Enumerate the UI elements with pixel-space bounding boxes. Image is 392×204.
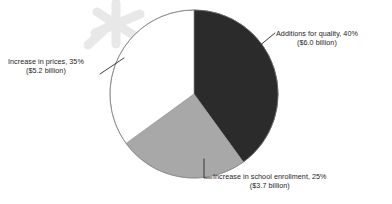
pie-label-line2: ($3.7 billion) [213,181,327,190]
leader-line-additions-for-quality [258,33,275,47]
pie-label-additions-for-quality: Additions for quality, 40% ($6.0 billion… [276,29,358,48]
pie-label-line1: Increase in school enrollment, 25% [213,172,327,181]
pie-label-line2: ($6.0 billion) [276,38,358,47]
pie-label-increase-in-prices: Increase in prices, 35% ($5.2 billion) [8,57,84,76]
pie-chart-figure: Additions for quality, 40% ($6.0 billion… [0,0,392,204]
pie-label-increase-in-school-enrollment: Increase in school enrollment, 25% ($3.7… [213,172,327,191]
pie-label-line1: Additions for quality, 40% [276,29,358,38]
pie-label-line1: Increase in prices, 35% [8,57,84,66]
pie-label-line2: ($5.2 billion) [8,66,84,75]
